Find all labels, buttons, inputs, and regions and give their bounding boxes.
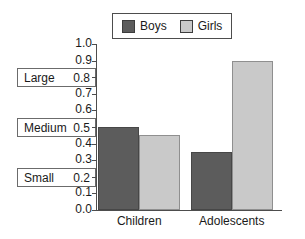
- y-tick-mark: [92, 127, 96, 128]
- category-label-children: Children: [89, 214, 189, 228]
- plot-area: [97, 44, 282, 210]
- y-tick-mark: [92, 77, 96, 78]
- y-tick-mark: [92, 210, 96, 211]
- y-tick-label: 0.4: [75, 137, 92, 150]
- annotation-value: 0.2: [73, 171, 90, 185]
- y-tick-mark: [92, 61, 96, 62]
- y-tick-label: 0.6: [75, 103, 92, 116]
- annotation-value: 0.5: [73, 121, 90, 135]
- y-tick-mark: [92, 177, 96, 178]
- legend-entry-girls: Girls: [180, 20, 223, 33]
- legend-label-boys: Boys: [140, 20, 167, 32]
- annotation-value: 0.8: [73, 71, 90, 85]
- y-tick-mark: [92, 193, 96, 194]
- annotation-label: Small: [24, 171, 54, 185]
- bar-chart: Boys Girls 0.00.10.20.30.40.50.60.70.80.…: [0, 0, 305, 239]
- y-tick-label: 0.7: [75, 87, 92, 100]
- legend-entry-boys: Boys: [122, 20, 167, 33]
- annotation-label: Medium: [24, 121, 67, 135]
- legend-swatch-girls-icon: [180, 20, 193, 33]
- annotation-label: Large: [24, 71, 55, 85]
- chart-legend: Boys Girls: [112, 13, 232, 39]
- category-label-adolescents: Adolescents: [182, 214, 282, 228]
- y-tick-mark: [92, 94, 96, 95]
- y-tick-label: 0.1: [75, 186, 92, 199]
- y-tick-mark: [92, 44, 96, 45]
- x-axis-line: [96, 210, 282, 211]
- y-tick-label: 0.3: [75, 153, 92, 166]
- bar-adolescents-girls: [232, 61, 273, 210]
- legend-swatch-boys-icon: [122, 20, 135, 33]
- y-tick-mark: [92, 160, 96, 161]
- y-tick-mark: [92, 110, 96, 111]
- y-tick-label: 1.0: [75, 37, 92, 50]
- bar-adolescents-boys: [191, 152, 232, 210]
- bar-children-boys: [98, 127, 139, 210]
- bar-children-girls: [139, 135, 180, 210]
- annotation-box-small: Small0.2: [17, 168, 96, 187]
- annotation-box-large: Large0.8: [17, 68, 96, 87]
- legend-label-girls: Girls: [198, 20, 223, 32]
- y-tick-label: 0.9: [75, 54, 92, 67]
- annotation-box-medium: Medium0.5: [17, 118, 96, 137]
- y-tick-mark: [92, 144, 96, 145]
